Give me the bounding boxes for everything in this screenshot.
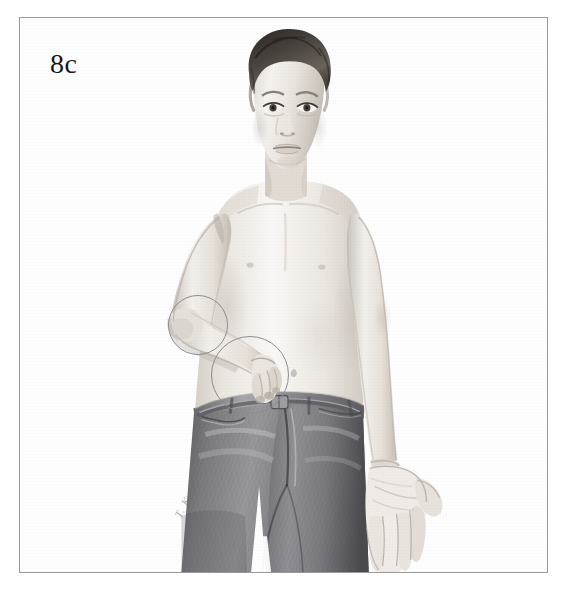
pencil-drawing <box>20 18 547 572</box>
panel-label: 8c <box>50 50 77 78</box>
figure-frame: T. Kay 8c <box>19 17 548 573</box>
annotation-circle-wrist <box>211 336 289 414</box>
figure-root: T. Kay 8c <box>0 0 564 591</box>
annotation-circle-elbow <box>168 295 228 355</box>
